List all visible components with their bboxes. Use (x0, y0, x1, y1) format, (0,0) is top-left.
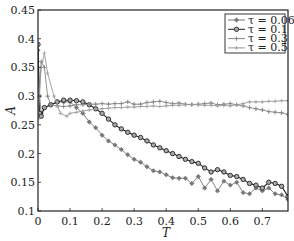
x-tick-label: 0.7 (254, 215, 272, 228)
circle-marker-icon (273, 181, 277, 185)
thin-plus-marker-icon (58, 111, 62, 115)
y-tick-label: 0.1 (18, 205, 36, 218)
circle-marker-icon (177, 154, 181, 158)
thin-plus-marker-icon (273, 99, 277, 103)
thin-plus-marker-icon (183, 103, 187, 107)
plus-marker-icon (151, 100, 155, 104)
thin-plus-marker-icon (113, 106, 117, 110)
circle-marker-icon (132, 133, 136, 137)
thin-plus-marker-icon (228, 104, 232, 108)
diamond-marker-icon (151, 169, 155, 173)
thin-plus-marker-icon (74, 110, 78, 114)
plus-marker-icon (100, 101, 104, 105)
circle-marker-icon (126, 130, 130, 134)
series-3 (36, 59, 290, 116)
thin-plus-marker-icon (145, 104, 149, 108)
thin-plus-marker-icon (87, 108, 91, 112)
x-tick-label: 0.1 (61, 215, 79, 228)
circle-marker-icon (279, 184, 283, 188)
legend-label: τ = 0.5 (248, 41, 288, 54)
plus-marker-icon (145, 100, 149, 104)
thin-plus-marker-icon (241, 102, 245, 106)
plus-marker-icon (273, 110, 277, 114)
series-4 (36, 51, 290, 121)
thin-plus-marker-icon (46, 71, 50, 75)
x-tick-label: 0.3 (125, 215, 143, 228)
thin-plus-marker-icon (267, 99, 271, 103)
y-tick-label: 0.2 (18, 148, 36, 161)
thin-plus-marker-icon (164, 104, 168, 108)
circle-marker-icon (215, 167, 219, 171)
circle-marker-icon (164, 149, 168, 153)
thin-plus-marker-icon (196, 103, 200, 107)
series-1 (36, 48, 290, 202)
plus-marker-icon (126, 100, 130, 104)
circle-marker-icon (74, 99, 78, 103)
line-chart: 0.10.150.20.250.30.350.40.4500.10.20.30.… (0, 0, 294, 241)
x-tick-label: 0.5 (190, 215, 208, 228)
circle-marker-icon (61, 98, 65, 102)
x-tick-label: 0 (35, 215, 42, 228)
y-axis-label: A (4, 106, 18, 116)
thin-plus-marker-icon (100, 107, 104, 111)
thin-plus-marker-icon (235, 103, 239, 107)
circle-marker-icon (190, 159, 194, 163)
thin-plus-marker-icon (107, 106, 111, 110)
circle-marker-icon (254, 183, 258, 187)
y-tick-label: 0.4 (18, 33, 36, 46)
circle-marker-icon (247, 181, 251, 185)
series-2 (36, 42, 290, 199)
circle-marker-icon (138, 135, 142, 139)
plus-marker-icon (279, 111, 283, 115)
diamond-marker-icon (241, 190, 245, 194)
legend: τ = 0.06τ = 0.1τ = 0.3τ = 0.5 (225, 14, 294, 55)
circle-marker-icon (68, 98, 72, 102)
circle-marker-icon (209, 170, 213, 174)
thin-plus-marker-icon (158, 104, 162, 108)
thin-plus-marker-icon (280, 99, 284, 103)
diamond-marker-icon (177, 176, 181, 180)
diamond-marker-icon (164, 173, 168, 177)
plus-marker-icon (61, 104, 65, 108)
plus-marker-icon (45, 94, 49, 98)
circle-marker-icon (170, 151, 174, 155)
plus-marker-icon (119, 101, 123, 105)
plus-marker-icon (106, 102, 110, 106)
thin-plus-marker-icon (132, 105, 136, 109)
thin-plus-marker-icon (126, 105, 130, 109)
circle-marker-icon (119, 127, 123, 131)
thin-plus-marker-icon (151, 104, 155, 108)
y-tick-label: 0.15 (11, 176, 36, 189)
circle-marker-icon (145, 139, 149, 143)
circle-marker-icon (241, 177, 245, 181)
plus-marker-icon (113, 101, 117, 105)
circle-marker-icon (158, 146, 162, 150)
circle-marker-icon (267, 180, 271, 184)
plus-marker-icon (68, 104, 72, 108)
diamond-marker-icon (158, 170, 162, 174)
y-tick-label: 0.3 (18, 90, 36, 103)
circle-marker-icon (39, 114, 43, 118)
thin-plus-marker-icon (248, 100, 252, 104)
y-tick-label: 0.25 (11, 119, 36, 132)
diamond-marker-icon (235, 180, 239, 184)
circle-marker-icon (113, 123, 117, 127)
thin-plus-marker-icon (139, 104, 143, 108)
x-axis-label: T (162, 226, 171, 240)
plus-marker-icon (267, 109, 271, 113)
circle-marker-icon (234, 27, 238, 31)
diamond-marker-icon (170, 175, 174, 179)
y-tick-label: 0.35 (11, 61, 36, 74)
thin-plus-marker-icon (254, 100, 258, 104)
plot-area (36, 42, 290, 201)
circle-marker-icon (183, 157, 187, 161)
circle-marker-icon (196, 161, 200, 165)
thin-plus-marker-icon (190, 102, 194, 106)
thin-plus-marker-icon (260, 100, 264, 104)
plus-marker-icon (254, 107, 258, 111)
thin-plus-marker-icon (119, 106, 123, 110)
x-tick-label: 0.6 (222, 215, 240, 228)
plus-marker-icon (158, 99, 162, 103)
thin-plus-marker-icon (209, 103, 213, 107)
circle-marker-icon (151, 143, 155, 147)
